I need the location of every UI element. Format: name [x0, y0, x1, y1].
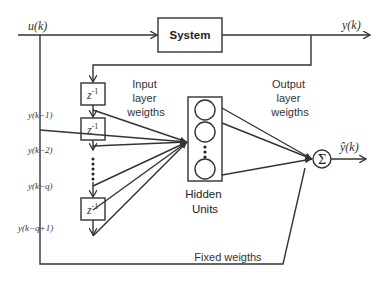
tap-label-q: y(k−q) — [27, 181, 53, 191]
estimate-label: ŷ(k) — [339, 140, 359, 154]
hidden-units-label: Hidden Units — [185, 188, 225, 215]
system-block: System — [158, 18, 222, 52]
tap-label-q1: y(k−q+1) — [17, 223, 53, 233]
input-weight-lines — [40, 110, 187, 236]
summation-node: Σ — [313, 150, 331, 168]
hidden-units-box — [188, 97, 222, 181]
sigma-icon: Σ — [318, 153, 326, 167]
neural-network-system-identification-diagram: u(k) System y(k) z-1 y(k−1) z-1 y(k−2) y… — [0, 0, 389, 286]
delay-block-3: z-1 — [81, 198, 105, 220]
input-signal: u(k) — [18, 19, 157, 35]
system-label: System — [170, 29, 211, 41]
delay-block-2: z-1 — [81, 118, 105, 140]
output-weights-label: Output layer weigths — [270, 78, 309, 118]
output-weight-lines — [222, 108, 312, 175]
hidden-units-block — [188, 97, 222, 181]
input-weights-label: Input layer weigths — [126, 78, 165, 118]
fixed-weights-label: Fixed weigths — [194, 251, 262, 263]
delay-block-1: z-1 — [81, 83, 105, 105]
output-label: y(k) — [341, 18, 361, 32]
input-label: u(k) — [28, 19, 47, 33]
output-signal: y(k) — [222, 18, 370, 35]
tap-label-1: y(k−1) — [27, 110, 53, 120]
ellipsis-dots — [92, 158, 95, 181]
tap-label-2: y(k−2) — [27, 145, 53, 155]
